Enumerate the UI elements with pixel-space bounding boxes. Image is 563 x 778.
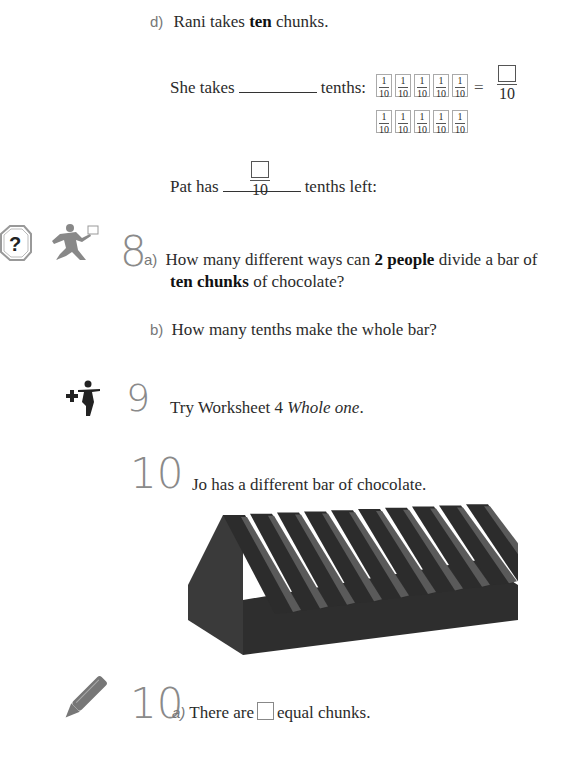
question-number-8: 8 bbox=[120, 230, 147, 274]
question-number-9: 9 bbox=[126, 378, 150, 418]
part-d-line1: d) Rani takes ten chunks. bbox=[150, 12, 328, 32]
answer-blank[interactable] bbox=[239, 78, 317, 93]
tenth-tile: 110 bbox=[376, 74, 392, 97]
part-d-line2: She takestenths: bbox=[170, 78, 366, 98]
part-d-label: d) bbox=[150, 13, 163, 30]
q8a-line1: a) How many different ways can 2 people … bbox=[144, 250, 537, 270]
tenth-tile: 110 bbox=[452, 110, 468, 133]
q8a-line2: ten chunks of chocolate? bbox=[170, 272, 344, 292]
pencil-icon bbox=[60, 675, 108, 727]
running-person-icon bbox=[38, 222, 100, 266]
svg-text:?: ? bbox=[9, 233, 21, 255]
extension-plus-figure-icon bbox=[64, 380, 104, 424]
tenth-tile: 110 bbox=[433, 74, 449, 97]
answer-box[interactable] bbox=[257, 702, 274, 720]
part-d-line3: Pat hastenths left: bbox=[170, 177, 377, 197]
tenth-tile: 110 bbox=[376, 110, 392, 133]
question-stop-sign-icon: ? bbox=[0, 225, 32, 265]
question-number-10: 10 bbox=[130, 452, 183, 496]
fraction-answer: 10 bbox=[496, 65, 518, 103]
q10-text: Jo has a different bar of chocolate. bbox=[192, 475, 426, 495]
chocolate-bar-illustration bbox=[188, 500, 518, 664]
tenth-tile: 110 bbox=[395, 110, 411, 133]
tenth-tile: 110 bbox=[395, 74, 411, 97]
tenth-tile: 110 bbox=[433, 110, 449, 133]
q8b: b) How many tenths make the whole bar? bbox=[150, 320, 437, 340]
tenth-tiles-row-1: 110110110110110 bbox=[376, 74, 471, 101]
fraction-left: 10 bbox=[249, 161, 271, 199]
numerator-box[interactable] bbox=[498, 65, 516, 82]
numerator-box[interactable] bbox=[251, 161, 269, 178]
tenth-tile: 110 bbox=[414, 74, 430, 97]
tenth-tile: 110 bbox=[414, 110, 430, 133]
q9-text: Try Worksheet 4 Whole one. bbox=[170, 398, 364, 418]
tenth-tiles-row-2: 110110110110110 bbox=[376, 110, 471, 137]
tenth-tile: 110 bbox=[452, 74, 468, 97]
q10a-text: a) There areequal chunks. bbox=[172, 702, 370, 723]
equals-sign: = bbox=[474, 78, 484, 98]
